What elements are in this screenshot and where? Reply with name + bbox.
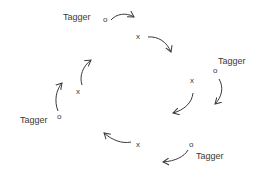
arrow-right-tagger [215,79,222,104]
tagger-top-label: Tagger [63,13,91,22]
player-bottom-marker: x [136,141,140,149]
arrow-left-player [81,60,91,85]
tagger-bottom-label: Tagger [196,152,224,161]
arrow-bottom-tagger [163,150,188,162]
arrow-left-tagger [56,83,62,111]
player-top-marker: x [136,33,140,41]
arrow-right-player [173,93,193,113]
tagger-right-label: Tagger [218,57,246,66]
player-right-marker: x [190,77,194,85]
arrow-top-tagger [111,14,134,20]
tagger-right-marker: o [213,67,217,75]
tagger-left-marker: o [57,113,61,121]
tagger-top-marker: o [103,16,107,24]
tagger-left-label: Tagger [20,116,48,125]
arrow-bottom-player [104,133,131,143]
tagger-bottom-marker: o [189,141,193,149]
arrow-top-player [148,37,171,52]
player-left-marker: x [76,88,80,96]
